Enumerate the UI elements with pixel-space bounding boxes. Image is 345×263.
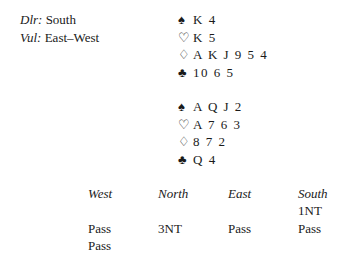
vul-label: Vul: [20, 30, 41, 45]
vulnerability-line: Vul: East–West [20, 29, 99, 46]
auction-bid: 1NT [298, 202, 322, 219]
auction-bid: Pass [88, 237, 111, 254]
auction-bid: 3NT [158, 220, 182, 237]
diamond-icon: ♢ [178, 133, 193, 150]
spade-icon: ♠ [178, 98, 193, 115]
auction-bid: Pass [298, 220, 321, 237]
auction-header-west: West [88, 185, 112, 202]
dealer-value: South [42, 12, 76, 27]
north-clubs: ♣10 6 5 [178, 64, 235, 81]
club-icon: ♣ [178, 151, 193, 168]
south-diamonds-cards: 8 7 2 [193, 134, 227, 149]
club-icon: ♣ [178, 64, 193, 81]
north-hearts-cards: K 5 [193, 30, 217, 45]
south-spades-cards: A Q J 2 [193, 99, 243, 114]
diamond-icon: ♢ [178, 46, 193, 63]
south-spades: ♠A Q J 2 [178, 98, 243, 115]
south-clubs-cards: Q 4 [193, 152, 217, 167]
spade-icon: ♠ [178, 11, 193, 28]
north-spades-cards: K 4 [193, 12, 217, 27]
north-spades: ♠K 4 [178, 11, 217, 28]
north-diamonds-cards: A K J 9 5 4 [193, 47, 268, 62]
auction-header-south: South [298, 185, 328, 202]
south-hearts: ♡A 7 6 3 [178, 116, 241, 133]
heart-icon: ♡ [178, 29, 193, 46]
dealer-line: Dlr: South [20, 11, 76, 28]
auction-bid: Pass [88, 220, 111, 237]
auction-bid: Pass [228, 220, 251, 237]
south-hearts-cards: A 7 6 3 [193, 117, 241, 132]
heart-icon: ♡ [178, 116, 193, 133]
north-hearts: ♡K 5 [178, 29, 217, 46]
north-clubs-cards: 10 6 5 [193, 65, 235, 80]
north-diamonds: ♢A K J 9 5 4 [178, 46, 268, 63]
dealer-label: Dlr: [20, 12, 42, 27]
south-clubs: ♣Q 4 [178, 151, 217, 168]
vul-value: East–West [41, 30, 99, 45]
south-diamonds: ♢8 7 2 [178, 133, 227, 150]
auction-header-east: East [228, 185, 251, 202]
auction-header-north: North [158, 185, 188, 202]
